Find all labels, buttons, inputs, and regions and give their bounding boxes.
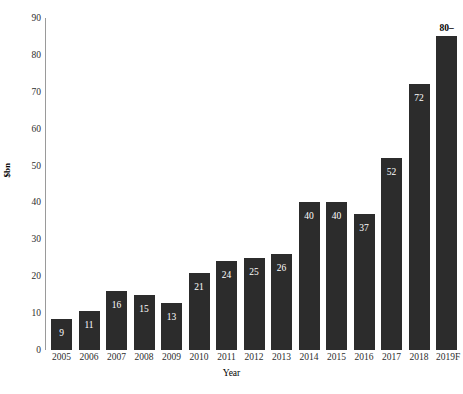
bar[interactable]: 26 [271, 254, 292, 350]
bar-column[interactable]: 9 [51, 18, 72, 350]
bar-column[interactable]: 15 [134, 18, 155, 350]
bar-value-label: 26 [271, 263, 292, 273]
bar[interactable]: 15 [134, 295, 155, 350]
bar-value-label: 16 [106, 300, 127, 310]
x-axis-tick-label: 2015 [326, 352, 347, 362]
y-axis-tick-label: 50 [32, 161, 42, 171]
bar-column[interactable]: 25 [244, 18, 265, 350]
x-axis-tick-label: 2008 [134, 352, 155, 362]
x-axis-ticks: 2005200620072008200920102011201220132014… [46, 352, 461, 362]
y-axis-tick-label: 90 [32, 13, 42, 23]
bar-column[interactable]: 26 [271, 18, 292, 350]
bar-chart: $bn 0102030405060708090 9111615132124252… [0, 0, 463, 394]
bar-value-label: 15 [134, 304, 155, 314]
bar-series: 91116151321242526404037527280– [46, 18, 461, 350]
bar[interactable]: 40 [326, 202, 347, 350]
bar-column[interactable]: 13 [161, 18, 182, 350]
bar-value-label: 9 [51, 328, 72, 338]
y-axis-label: $bn [2, 163, 16, 178]
x-axis-label: Year [0, 368, 463, 378]
bar-value-label: 21 [189, 282, 210, 292]
bar[interactable]: 80– [436, 36, 457, 350]
x-axis-tick-label: 2011 [216, 352, 237, 362]
bar[interactable]: 40 [299, 202, 320, 350]
y-axis-tick-label: 80 [32, 50, 42, 60]
x-axis-tick-label: 2018 [409, 352, 430, 362]
x-axis-tick-label: 2006 [79, 352, 100, 362]
x-axis-tick-label: 2007 [106, 352, 127, 362]
bar-value-label: 40 [299, 211, 320, 221]
bar[interactable]: 21 [189, 273, 210, 350]
bar-value-label: 37 [354, 223, 375, 233]
bar-value-label: 40 [326, 211, 347, 221]
plot-area: 0102030405060708090 91116151321242526404… [45, 18, 461, 350]
bar[interactable]: 37 [354, 214, 375, 350]
bar-value-label: 52 [381, 167, 402, 177]
bar-value-label: 25 [244, 267, 265, 277]
bar-value-label: 24 [216, 270, 237, 280]
bar[interactable]: 52 [381, 158, 402, 350]
x-axis-tick-label: 2017 [381, 352, 402, 362]
bar-value-label: 72 [409, 93, 430, 103]
bar-column[interactable]: 24 [216, 18, 237, 350]
bar-column[interactable]: 21 [189, 18, 210, 350]
bar[interactable]: 16 [106, 291, 127, 350]
x-axis-tick-label: 2012 [244, 352, 265, 362]
bar-value-label: 13 [161, 312, 182, 322]
bar-column[interactable]: 80– [436, 18, 457, 350]
x-axis-tick-label: 2005 [51, 352, 72, 362]
y-axis-tick-label: 70 [32, 87, 42, 97]
bar-column[interactable]: 40 [299, 18, 320, 350]
x-axis-tick-label: 2013 [271, 352, 292, 362]
y-axis-tick-label: 40 [32, 197, 42, 207]
bar[interactable]: 11 [79, 311, 100, 350]
bar-column[interactable]: 72 [409, 18, 430, 350]
y-axis-tick-label: 20 [32, 271, 42, 281]
bar[interactable]: 25 [244, 258, 265, 350]
x-axis-tick-label: 2019F [436, 352, 457, 362]
bar-value-label: 80– [436, 23, 457, 33]
bar[interactable]: 72 [409, 84, 430, 350]
x-axis-tick-label: 2009 [161, 352, 182, 362]
y-axis-tick-label: 10 [32, 308, 42, 318]
bar-column[interactable]: 16 [106, 18, 127, 350]
x-axis-tick-label: 2010 [189, 352, 210, 362]
y-axis-tick-label: 0 [36, 345, 41, 355]
bar-column[interactable]: 37 [354, 18, 375, 350]
x-axis-tick-label: 2014 [299, 352, 320, 362]
bar-column[interactable]: 52 [381, 18, 402, 350]
bar-column[interactable]: 40 [326, 18, 347, 350]
bar-value-label: 11 [79, 320, 100, 330]
bar[interactable]: 9 [51, 319, 72, 350]
x-axis-tick-label: 2016 [354, 352, 375, 362]
bar[interactable]: 13 [161, 303, 182, 350]
bar[interactable]: 24 [216, 261, 237, 350]
y-axis-tick-label: 60 [32, 124, 42, 134]
y-axis-tick-label: 30 [32, 234, 42, 244]
bar-column[interactable]: 11 [79, 18, 100, 350]
